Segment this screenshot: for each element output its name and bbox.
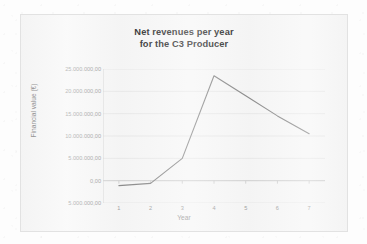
x-axis-tick-labels: 1234567 bbox=[103, 205, 325, 215]
plot-area bbox=[103, 69, 325, 203]
x-tick-label: 1 bbox=[112, 205, 126, 211]
y-tick-label: 5.000.000,00 bbox=[39, 200, 101, 206]
chart-title-line-1: Net revenues per year bbox=[134, 27, 233, 37]
y-axis-tick-labels: 25.000.000,0020.000.000,0015.000.000,001… bbox=[37, 15, 101, 233]
y-tick-label: 10.000.000,00 bbox=[39, 133, 101, 139]
x-tick-label: 5 bbox=[239, 205, 253, 211]
y-tick-label: 0,00 bbox=[39, 178, 101, 184]
data-series-group bbox=[119, 76, 309, 186]
y-axis-title: Financial value (€) bbox=[30, 63, 37, 159]
x-tick-label: 4 bbox=[207, 205, 221, 211]
y-tick-label: 20.000.000,00 bbox=[39, 88, 101, 94]
x-tick-label: 3 bbox=[175, 205, 189, 211]
x-tick-label: 7 bbox=[302, 205, 316, 211]
x-tick-label: 6 bbox=[270, 205, 284, 211]
y-tick-label: 5.000.000,00 bbox=[39, 155, 101, 161]
x-tick-label: 2 bbox=[144, 205, 158, 211]
plot-canvas bbox=[103, 69, 325, 203]
y-tick-label: 15.000.000,00 bbox=[39, 111, 101, 117]
y-tick-label: 25.000.000,00 bbox=[39, 66, 101, 72]
chart-frame: Net revenues per year for the C3 Produce… bbox=[20, 14, 348, 232]
chart-screenshot: Net revenues per year for the C3 Produce… bbox=[0, 0, 367, 244]
series-line bbox=[119, 76, 309, 186]
